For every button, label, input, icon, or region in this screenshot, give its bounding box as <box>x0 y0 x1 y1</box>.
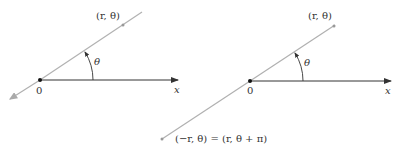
angle-arc <box>85 52 93 80</box>
point-label: (r, θ) <box>96 10 120 21</box>
angle-label: θ <box>94 56 100 67</box>
axis-label: x <box>174 84 180 95</box>
point-label: (r, θ) <box>308 10 332 21</box>
negative-point-label: (−r, θ) = (r, θ + π) <box>175 133 267 144</box>
point-r-theta <box>333 25 336 28</box>
ray-line <box>40 12 142 80</box>
point-negative-r <box>161 138 164 141</box>
right-diagram: (r, θ) θ 0 x (−r, θ) = (r, θ + π) <box>161 10 392 144</box>
axis-label: x <box>385 85 391 96</box>
angle-arc <box>295 53 303 81</box>
point-r-theta <box>122 24 125 27</box>
origin-label: 0 <box>247 85 253 96</box>
origin-point <box>38 78 42 82</box>
origin-label: 0 <box>36 85 42 96</box>
origin-point <box>248 79 252 83</box>
polar-coordinates-diagram: (r, θ) θ 0 x (r, θ) θ 0 x (−r, θ) = (r, … <box>0 0 399 153</box>
left-diagram: (r, θ) θ 0 x <box>10 10 180 99</box>
angle-label: θ <box>304 57 310 68</box>
